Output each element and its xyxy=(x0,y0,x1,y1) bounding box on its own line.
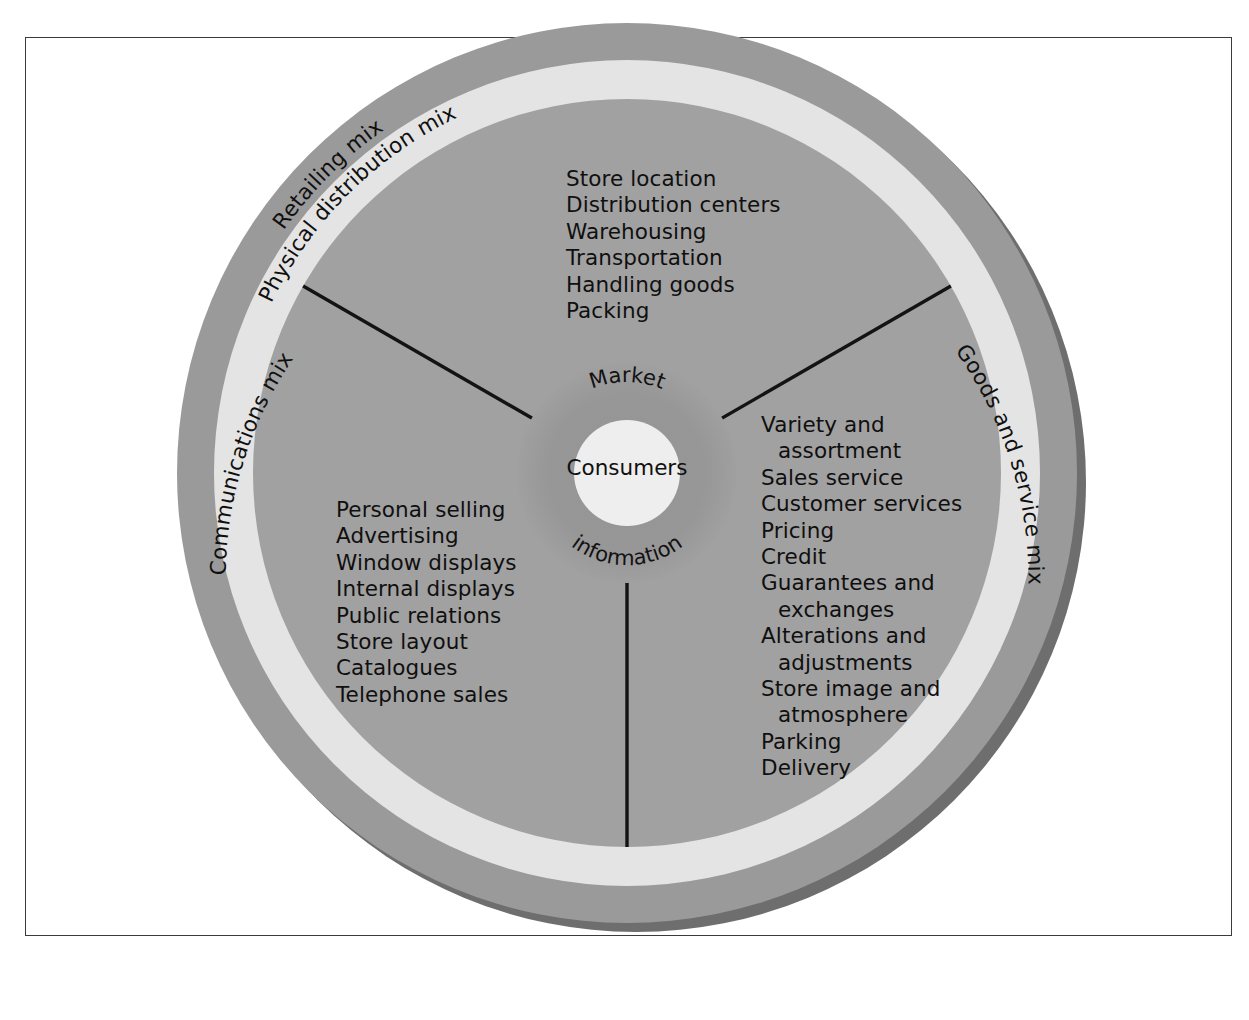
list-item: Window displays xyxy=(336,550,517,576)
sector-list-communications: Personal sellingAdvertisingWindow displa… xyxy=(336,497,517,708)
list-item: Public relations xyxy=(336,603,517,629)
list-item: Pricing xyxy=(761,518,962,544)
list-item: Credit xyxy=(761,544,962,570)
retailing-mix-wheel: Retailing mix Physical distribution mix … xyxy=(0,0,1249,1020)
list-item: adjustments xyxy=(761,650,962,676)
list-item: Guarantees and xyxy=(761,570,962,596)
list-item: Distribution centers xyxy=(566,192,781,218)
list-item: Personal selling xyxy=(336,497,517,523)
core-label-consumers: Consumers xyxy=(567,455,688,480)
list-item: Parking xyxy=(761,729,962,755)
list-item: Packing xyxy=(566,298,781,324)
list-item: assortment xyxy=(761,438,962,464)
list-item: Handling goods xyxy=(566,272,781,298)
list-item: Internal displays xyxy=(336,576,517,602)
list-item: exchanges xyxy=(761,597,962,623)
sector-list-physical-distribution: Store locationDistribution centersWareho… xyxy=(566,166,781,324)
diagram-stage: Retailing mix Physical distribution mix … xyxy=(0,0,1249,1020)
list-item: atmosphere xyxy=(761,702,962,728)
list-item: Store image and xyxy=(761,676,962,702)
list-item: Store location xyxy=(566,166,781,192)
list-item: Warehousing xyxy=(566,219,781,245)
list-item: Store layout xyxy=(336,629,517,655)
list-item: Variety and xyxy=(761,412,962,438)
list-item: Customer services xyxy=(761,491,962,517)
list-item: Sales service xyxy=(761,465,962,491)
list-item: Transportation xyxy=(566,245,781,271)
sector-list-goods-and-service: Variety andassortmentSales serviceCustom… xyxy=(761,412,962,782)
list-item: Catalogues xyxy=(336,655,517,681)
list-item: Alterations and xyxy=(761,623,962,649)
list-item: Telephone sales xyxy=(336,682,517,708)
list-item: Advertising xyxy=(336,523,517,549)
list-item: Delivery xyxy=(761,755,962,781)
